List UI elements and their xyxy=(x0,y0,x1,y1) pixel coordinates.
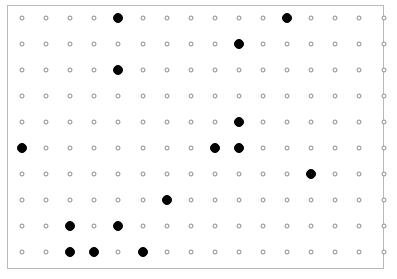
hollow-dot xyxy=(44,146,49,151)
hollow-dot xyxy=(381,250,386,255)
hollow-dot xyxy=(285,42,290,47)
hollow-dot xyxy=(68,120,73,125)
hollow-dot xyxy=(285,198,290,203)
hollow-dot xyxy=(116,42,121,47)
hollow-dot xyxy=(261,68,266,73)
hollow-dot xyxy=(44,198,49,203)
hollow-dot xyxy=(381,224,386,229)
hollow-dot xyxy=(285,120,290,125)
hollow-dot xyxy=(188,198,193,203)
hollow-dot xyxy=(92,16,97,21)
hollow-dot xyxy=(285,94,290,99)
hollow-dot xyxy=(164,172,169,177)
hollow-dot xyxy=(44,16,49,21)
hollow-dot xyxy=(357,94,362,99)
hollow-dot xyxy=(212,94,217,99)
hollow-dot xyxy=(309,198,314,203)
filled-dot xyxy=(234,39,244,49)
hollow-dot xyxy=(285,172,290,177)
dot-grid-figure xyxy=(0,0,397,279)
hollow-dot xyxy=(212,224,217,229)
filled-dot xyxy=(65,247,75,257)
hollow-dot xyxy=(261,94,266,99)
hollow-dot xyxy=(381,172,386,177)
hollow-dot xyxy=(20,172,25,177)
hollow-dot xyxy=(357,146,362,151)
hollow-dot xyxy=(68,198,73,203)
hollow-dot xyxy=(92,198,97,203)
filled-dot xyxy=(113,221,123,231)
hollow-dot xyxy=(333,250,338,255)
hollow-dot xyxy=(116,120,121,125)
hollow-dot xyxy=(92,68,97,73)
hollow-dot xyxy=(44,94,49,99)
hollow-dot xyxy=(212,172,217,177)
hollow-dot xyxy=(68,68,73,73)
hollow-dot xyxy=(261,120,266,125)
hollow-dot xyxy=(236,68,241,73)
hollow-dot xyxy=(381,94,386,99)
hollow-dot xyxy=(164,120,169,125)
hollow-dot xyxy=(188,68,193,73)
hollow-dot xyxy=(333,224,338,229)
hollow-dot xyxy=(188,16,193,21)
hollow-dot xyxy=(68,16,73,21)
hollow-dot xyxy=(44,120,49,125)
hollow-dot xyxy=(68,42,73,47)
hollow-dot xyxy=(333,198,338,203)
hollow-dot xyxy=(212,250,217,255)
hollow-dot xyxy=(92,120,97,125)
filled-dot xyxy=(282,13,292,23)
hollow-dot xyxy=(381,68,386,73)
hollow-dot xyxy=(309,68,314,73)
dot-layer xyxy=(0,0,397,279)
hollow-dot xyxy=(140,42,145,47)
hollow-dot xyxy=(20,94,25,99)
hollow-dot xyxy=(309,250,314,255)
filled-dot xyxy=(234,143,244,153)
hollow-dot xyxy=(116,250,121,255)
hollow-dot xyxy=(309,146,314,151)
hollow-dot xyxy=(140,94,145,99)
filled-dot xyxy=(113,13,123,23)
hollow-dot xyxy=(333,68,338,73)
hollow-dot xyxy=(164,94,169,99)
hollow-dot xyxy=(140,146,145,151)
hollow-dot xyxy=(44,172,49,177)
hollow-dot xyxy=(357,224,362,229)
filled-dot xyxy=(113,65,123,75)
hollow-dot xyxy=(261,42,266,47)
hollow-dot xyxy=(140,172,145,177)
hollow-dot xyxy=(68,94,73,99)
hollow-dot xyxy=(212,120,217,125)
filled-dot xyxy=(306,169,316,179)
hollow-dot xyxy=(44,224,49,229)
hollow-dot xyxy=(188,146,193,151)
hollow-dot xyxy=(261,250,266,255)
hollow-dot xyxy=(92,42,97,47)
hollow-dot xyxy=(188,172,193,177)
hollow-dot xyxy=(116,172,121,177)
hollow-dot xyxy=(261,16,266,21)
hollow-dot xyxy=(236,198,241,203)
hollow-dot xyxy=(212,42,217,47)
hollow-dot xyxy=(357,172,362,177)
hollow-dot xyxy=(357,42,362,47)
hollow-dot xyxy=(285,68,290,73)
hollow-dot xyxy=(333,172,338,177)
hollow-dot xyxy=(188,94,193,99)
hollow-dot xyxy=(309,16,314,21)
hollow-dot xyxy=(164,16,169,21)
hollow-dot xyxy=(333,94,338,99)
hollow-dot xyxy=(92,146,97,151)
hollow-dot xyxy=(188,42,193,47)
hollow-dot xyxy=(140,120,145,125)
hollow-dot xyxy=(116,146,121,151)
hollow-dot xyxy=(68,172,73,177)
hollow-dot xyxy=(309,224,314,229)
hollow-dot xyxy=(357,120,362,125)
hollow-dot xyxy=(261,198,266,203)
hollow-dot xyxy=(92,94,97,99)
hollow-dot xyxy=(261,224,266,229)
hollow-dot xyxy=(261,146,266,151)
